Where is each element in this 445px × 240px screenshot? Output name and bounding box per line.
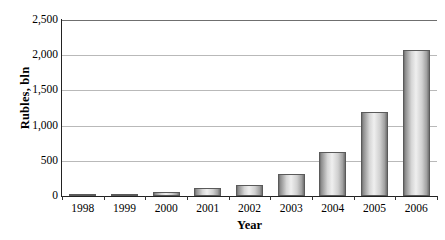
bar-chart: Rubles, bln 05001,0001,5002,0002,500 199… (0, 0, 445, 240)
x-tick-mark (354, 196, 355, 200)
bar-2002[interactable] (236, 185, 263, 196)
bar-2003[interactable] (278, 174, 305, 196)
bar-slot (319, 20, 346, 196)
x-tick-label-2003: 2003 (280, 202, 303, 214)
bar-2005[interactable] (361, 112, 388, 196)
x-tick-mark (437, 196, 438, 200)
x-tick-mark (62, 196, 63, 200)
x-tick-label-2005: 2005 (363, 202, 386, 214)
bar-slot (153, 20, 180, 196)
x-tick-mark (395, 196, 396, 200)
x-tick-mark (145, 196, 146, 200)
bars-layer (62, 20, 437, 196)
x-tick-label-1999: 1999 (113, 202, 136, 214)
y-tick-label: 1,000 (16, 120, 58, 132)
x-tick-label-2006: 2006 (405, 202, 428, 214)
bar-slot (278, 20, 305, 196)
x-tick-mark (187, 196, 188, 200)
bar-slot (69, 20, 96, 196)
bar-slot (236, 20, 263, 196)
bar-2004[interactable] (319, 152, 346, 196)
x-tick-mark (312, 196, 313, 200)
x-axis-title: Year (62, 218, 437, 233)
bar-slot (361, 20, 388, 196)
y-tick-label: 2,000 (16, 49, 58, 61)
y-tick-label: 0 (16, 190, 58, 202)
x-tick-label-2000: 2000 (155, 202, 178, 214)
x-tick-mark (270, 196, 271, 200)
y-tick-label: 1,500 (16, 85, 58, 97)
bar-slot (403, 20, 430, 196)
bar-2006[interactable] (403, 50, 430, 196)
x-tick-label-1998: 1998 (71, 202, 94, 214)
bar-slot (111, 20, 138, 196)
y-tick-label: 2,500 (16, 14, 58, 26)
y-axis-tick-labels: 05001,0001,5002,0002,500 (0, 0, 58, 240)
bar-slot (194, 20, 221, 196)
y-tick-label: 500 (16, 155, 58, 167)
x-tick-mark (229, 196, 230, 200)
x-tick-mark (104, 196, 105, 200)
x-tick-label-2001: 2001 (196, 202, 219, 214)
x-tick-label-2004: 2004 (321, 202, 344, 214)
bar-2001[interactable] (194, 188, 221, 196)
x-tick-label-2002: 2002 (238, 202, 261, 214)
